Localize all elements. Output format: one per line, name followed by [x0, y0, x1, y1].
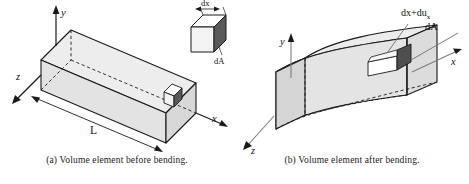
x-axis-label: x	[450, 56, 456, 67]
inset-cube-front-face	[191, 27, 214, 52]
da-label: dA	[425, 21, 438, 32]
length-dimension-arrow-right	[154, 145, 163, 152]
inset-da-label: dA	[214, 56, 225, 66]
y-axis-label: y	[279, 36, 285, 47]
panel-a-caption: (a) Volume element before bending.	[0, 155, 234, 165]
panel-b-caption: (b) Volume element after bending.	[235, 155, 469, 165]
z-axis-line	[247, 116, 274, 146]
bending-volume-element-figure: y x z L dx	[0, 0, 469, 184]
length-label: L	[90, 124, 97, 136]
inset-dx-label: dx	[201, 0, 210, 8]
x-axis-line	[196, 113, 224, 125]
inset-da-leader	[219, 47, 222, 55]
panel-before-bending: y x z L dx	[0, 0, 234, 184]
inset-dx-arrow-right	[214, 7, 220, 12]
y-axis-arrowhead	[53, 5, 60, 14]
x-axis-arrowhead	[219, 120, 228, 127]
length-dimension-arrow-left	[31, 96, 40, 103]
y-axis-arrowhead	[288, 33, 294, 42]
y-axis-label: y	[60, 7, 66, 18]
panel-after-bending: dx+dux dA y x z (b) Volume element after…	[235, 0, 469, 184]
z-axis-label: z	[15, 71, 20, 82]
dxdux-label: dx+dux	[401, 7, 431, 21]
x-axis-label: x	[211, 113, 217, 124]
x-axis-arrowhead	[453, 49, 462, 55]
inset-dx-extension-right	[223, 7, 226, 15]
